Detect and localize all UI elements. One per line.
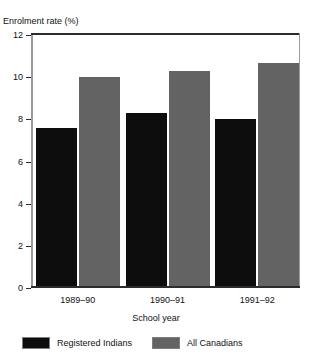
legend-item: Registered Indians	[22, 336, 132, 350]
y-tick-label: 12	[13, 31, 23, 40]
x-tick-label: 1991–92	[240, 295, 275, 306]
bar-group-container	[31, 33, 300, 286]
bar	[36, 128, 77, 286]
legend-swatch	[152, 337, 180, 349]
legend-label: Registered Indians	[57, 338, 132, 349]
bar	[169, 71, 210, 286]
x-axis-tick-labels: 1989–901990–911991–92	[31, 295, 300, 307]
y-tick-label: 6	[18, 157, 23, 166]
y-axis-title: Enrolment rate (%)	[3, 16, 79, 27]
bar	[79, 77, 120, 286]
legend-item: All Canadians	[152, 336, 243, 350]
y-tick-label: 8	[18, 115, 23, 124]
plot-area: 024681012	[31, 33, 300, 288]
bar	[215, 119, 256, 286]
x-axis-title: School year	[0, 313, 312, 324]
y-tick-label: 2	[18, 241, 23, 250]
bar	[258, 63, 299, 286]
y-tick-label: 4	[18, 199, 23, 208]
legend-label: All Canadians	[187, 338, 243, 349]
legend-swatch	[22, 337, 50, 349]
chart-legend: Registered IndiansAll Canadians	[0, 336, 312, 354]
cut-off-title-remnant	[0, 0, 312, 9]
y-tick-mark	[26, 288, 31, 289]
y-tick-label: 0	[18, 284, 23, 293]
bar	[126, 113, 167, 286]
x-tick-label: 1989–90	[60, 295, 95, 306]
x-tick-label: 1990–91	[150, 295, 185, 306]
y-tick-label: 10	[13, 73, 23, 82]
